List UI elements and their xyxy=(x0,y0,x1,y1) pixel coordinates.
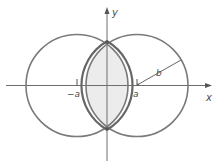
y-axis-label: y xyxy=(111,7,119,18)
label-neg-a: −a xyxy=(67,89,80,99)
bottom-intersection-point xyxy=(105,127,109,131)
x-axis-label: x xyxy=(205,92,212,103)
label-pos-a: a xyxy=(133,89,139,99)
top-intersection-point xyxy=(105,40,109,44)
two-circles-diagram: y x −a a b xyxy=(0,0,218,165)
right-center-point xyxy=(137,84,139,86)
label-radius-b: b xyxy=(156,68,162,78)
